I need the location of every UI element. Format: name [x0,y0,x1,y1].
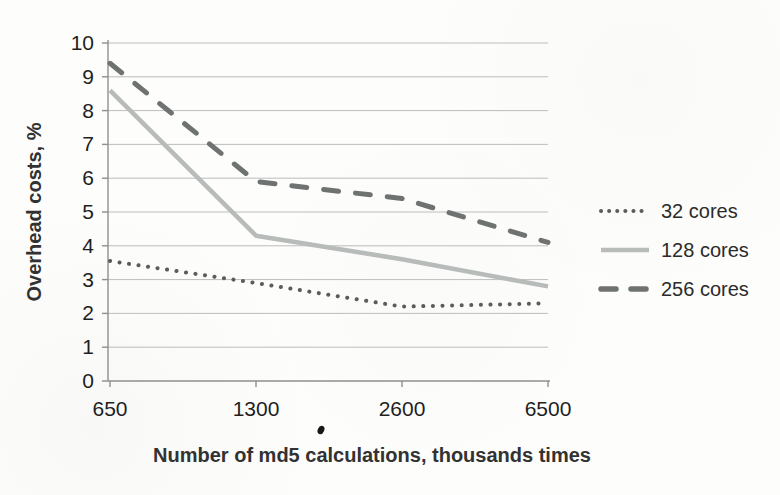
x-tick-label: 1300 [210,397,302,421]
y-tick-label: 1 [30,335,94,359]
legend-item-256-cores: 256 cores [598,276,749,302]
legend: 32 cores128 cores256 cores [598,198,749,302]
chart-figure: Overhead costs, % Number of md5 calculat… [0,0,780,495]
x-axis-title: Number of md5 calculations, thousands ti… [0,444,744,467]
y-tick-label: 8 [30,99,94,123]
y-tick-label: 0 [30,369,94,393]
y-tick-label: 10 [30,31,94,55]
legend-label: 256 cores [661,278,749,301]
y-tick-label: 7 [30,132,94,156]
y-tick-label: 2 [30,301,94,325]
x-tick-label: 650 [64,397,156,421]
legend-label: 32 cores [661,200,738,223]
legend-label: 128 cores [661,239,749,262]
legend-item-128-cores: 128 cores [598,237,749,263]
y-tick-label: 3 [30,268,94,292]
x-tick-label: 6500 [502,397,594,421]
legend-item-32-cores: 32 cores [598,198,749,224]
legend-marker-solid-icon [598,244,652,256]
legend-marker-dotted-icon [598,205,652,217]
y-tick-label: 4 [30,234,94,258]
y-tick-label: 9 [30,65,94,89]
legend-marker-dashed-icon [598,283,652,295]
y-tick-label: 6 [30,166,94,190]
y-tick-label: 5 [30,200,94,224]
x-tick-label: 2600 [356,397,448,421]
ink-speck [316,425,325,436]
series-line-32-cores [110,261,548,307]
